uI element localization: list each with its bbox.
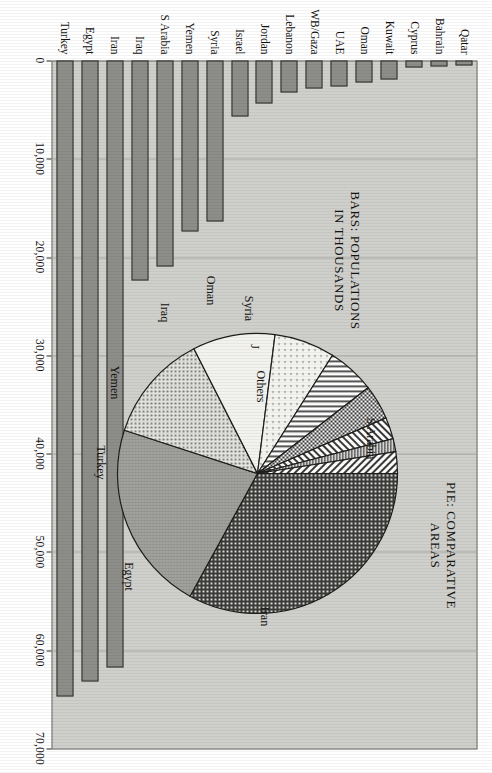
- bar: [181, 60, 198, 231]
- bar: [380, 60, 397, 79]
- pie-label: Oman: [203, 275, 218, 304]
- pie-title: PIE: COMPARATIVE AREAS: [426, 430, 459, 660]
- pie-label: J: [247, 344, 262, 349]
- category-axis-label: Israel: [233, 28, 245, 54]
- pie-label: S Arabia: [363, 417, 378, 459]
- bar: [256, 60, 273, 103]
- category-axis-label: WB/Gaza: [308, 9, 320, 54]
- category-axis-label: Egypt: [83, 27, 95, 54]
- pie-label: Syria: [241, 295, 256, 320]
- bar: [156, 60, 173, 266]
- bar: [305, 60, 322, 88]
- pie-chart: S ArabiaIranEgyptTurkeyYemenIraqOmanSyri…: [114, 330, 400, 616]
- value-axis-tick: [46, 257, 51, 258]
- value-axis-tick-label: 0: [33, 57, 45, 63]
- category-axis-label: Syria: [208, 30, 220, 54]
- value-axis-tick-label: 60,000: [33, 633, 45, 666]
- value-axis-tick-label: 30,000: [33, 338, 45, 371]
- bar: [56, 60, 73, 696]
- category-axis-label: Kuwait: [383, 20, 395, 54]
- category-axis-label: Lebanon: [283, 14, 295, 54]
- category-axis-label: Bahrain: [433, 18, 445, 54]
- pie-label: Yemen: [107, 365, 122, 398]
- value-axis-tick: [46, 60, 51, 61]
- rotated-figure: 010,00020,00030,00040,00050,00060,00070,…: [0, 0, 492, 773]
- category-axis-label: Qatar: [458, 28, 470, 54]
- bar: [405, 60, 422, 67]
- value-axis-tick: [46, 748, 51, 749]
- value-axis-tick: [46, 158, 51, 159]
- category-axis-label: UAE: [333, 30, 345, 54]
- bar: [206, 60, 223, 221]
- bar-row: [405, 60, 422, 748]
- bar: [430, 60, 447, 66]
- bar-row: [56, 60, 73, 748]
- pie-label: Turkey: [93, 445, 108, 479]
- bar: [231, 60, 248, 116]
- bar: [81, 60, 98, 681]
- bar: [330, 60, 347, 86]
- value-axis-tick-label: 40,000: [33, 437, 45, 470]
- scanned-page: 010,00020,00030,00040,00050,00060,00070,…: [0, 0, 492, 773]
- bar: [455, 60, 472, 65]
- value-axis: 010,00020,00030,00040,00050,00060,00070,…: [5, 60, 51, 749]
- bar: [355, 60, 372, 82]
- category-axis-label: S Arabia: [158, 14, 170, 54]
- category-axis-label: Iraq: [133, 35, 145, 54]
- value-axis-tick: [46, 650, 51, 651]
- value-axis-tick: [46, 453, 51, 454]
- bar-row: [81, 60, 98, 748]
- category-axis-label: Iran: [108, 35, 120, 54]
- category-axis-label: Cyprus: [408, 21, 420, 54]
- value-axis-tick-label: 50,000: [33, 535, 45, 568]
- bar: [131, 60, 148, 280]
- pie-label: Iraq: [157, 302, 172, 321]
- value-axis-tick-label: 10,000: [33, 142, 45, 175]
- pie-label: Egypt: [121, 562, 136, 591]
- category-axis-label: Turkey: [58, 21, 70, 54]
- category-axis-label: Oman: [358, 26, 370, 54]
- pie-label: Others: [253, 370, 268, 402]
- value-axis-tick: [46, 551, 51, 552]
- value-axis-tick: [46, 355, 51, 356]
- value-axis-tick-label: 70,000: [33, 732, 45, 765]
- category-axis-label: Yemen: [183, 22, 195, 54]
- category-axis: QatarBahrainCyprusKuwaitOmanUAEWB/GazaLe…: [52, 0, 476, 58]
- pie-label: Iran: [257, 606, 272, 625]
- value-axis-tick-label: 20,000: [33, 240, 45, 273]
- category-axis-label: Jordan: [258, 23, 270, 54]
- bar: [280, 60, 297, 92]
